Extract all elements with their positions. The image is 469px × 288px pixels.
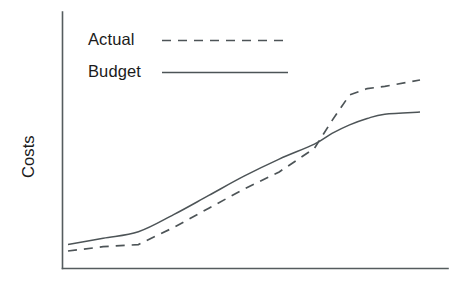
y-axis-title: Costs <box>19 135 37 178</box>
series-line-budget <box>68 112 420 245</box>
chart-container: Costs Actual Budget <box>0 0 469 288</box>
legend-label-actual: Actual <box>88 30 134 48</box>
line-chart: Costs Actual Budget <box>0 0 469 288</box>
legend-label-budget: Budget <box>88 62 141 80</box>
series-line-actual <box>68 80 420 251</box>
